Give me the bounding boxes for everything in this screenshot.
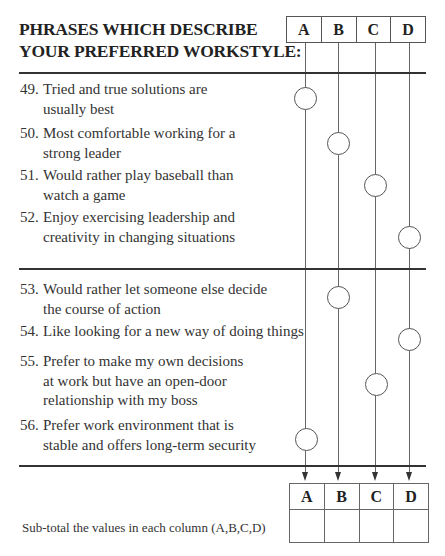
item-text: Like looking for a new way of doing thin…: [43, 322, 300, 342]
subtotal-header-row: A B C D: [290, 484, 428, 510]
subtotal-field-c[interactable]: [360, 510, 395, 543]
item-number: 54.: [20, 322, 39, 342]
subtotal-field-b[interactable]: [325, 510, 360, 543]
item-text: Most comfortable working for a strong le…: [43, 124, 243, 163]
title-line-1: PHRASES WHICH DESCRIBE: [19, 18, 302, 40]
subtotal-field-a[interactable]: [290, 510, 325, 543]
item-54: 54. Like looking for a new way of doing …: [20, 322, 300, 342]
divider-bottom: [19, 465, 426, 467]
answer-circle-54-d[interactable]: [398, 328, 421, 351]
item-49: 49. Tried and true solutions are usually…: [20, 80, 282, 119]
column-header-d: D: [391, 17, 425, 42]
item-number: 55.: [20, 352, 39, 372]
answer-circle-55-c[interactable]: [365, 373, 388, 396]
item-number: 52.: [20, 208, 39, 228]
item-text: Would rather play baseball than watch a …: [43, 166, 243, 205]
item-56: 56. Prefer work environment that is stab…: [20, 416, 282, 455]
item-55: 55. Prefer to make my own decisions at w…: [20, 352, 282, 411]
arrow-down-icon: [372, 472, 378, 481]
answer-circle-50-b[interactable]: [327, 132, 350, 155]
item-text: Tried and true solutions are usually bes…: [43, 80, 243, 119]
divider-middle: [19, 268, 426, 270]
column-header-box: A B C D: [286, 16, 426, 43]
answer-circle-56-a[interactable]: [295, 428, 318, 451]
column-line-d: [409, 43, 410, 473]
item-52: 52. Enjoy exercising leadership and crea…: [20, 208, 282, 247]
item-number: 56.: [20, 416, 39, 436]
subtotal-header-a: A: [290, 484, 325, 509]
divider-top: [19, 72, 426, 74]
answer-circle-51-c[interactable]: [364, 174, 387, 197]
column-line-b: [338, 43, 339, 473]
item-text: Prefer work environment that is stable a…: [43, 416, 268, 455]
item-51: 51. Would rather play baseball than watc…: [20, 166, 282, 205]
column-header-a: A: [287, 17, 322, 42]
answer-circle-53-b[interactable]: [327, 286, 350, 309]
item-number: 51.: [20, 166, 39, 186]
item-number: 49.: [20, 80, 39, 100]
item-text: Would rather let someone else decide the…: [43, 280, 273, 319]
arrow-down-icon: [406, 472, 412, 481]
column-header-b: B: [322, 17, 357, 42]
subtotal-header-d: D: [394, 484, 428, 509]
item-53: 53. Would rather let someone else decide…: [20, 280, 282, 319]
answer-circle-52-d[interactable]: [398, 226, 421, 249]
item-text: Enjoy exercising leadership and creativi…: [43, 208, 258, 247]
item-number: 53.: [20, 280, 39, 300]
item-number: 50.: [20, 124, 39, 144]
answer-circle-49-a[interactable]: [294, 87, 317, 110]
column-header-c: C: [357, 17, 392, 42]
subtotal-header-b: B: [325, 484, 360, 509]
arrow-down-icon: [302, 472, 308, 481]
title-line-2: YOUR PREFERRED WORKSTYLE:: [19, 40, 302, 62]
subtotal-table: A B C D: [289, 483, 429, 543]
item-text: Prefer to make my own decisions at work …: [43, 352, 253, 411]
subtotal-values-row: [290, 510, 428, 543]
subtotal-label: Sub-total the values in each column (A,B…: [22, 520, 266, 536]
arrow-down-icon: [335, 472, 341, 481]
page-title: PHRASES WHICH DESCRIBE YOUR PREFERRED WO…: [19, 18, 302, 62]
subtotal-field-d[interactable]: [394, 510, 428, 543]
item-50: 50. Most comfortable working for a stron…: [20, 124, 282, 163]
subtotal-header-c: C: [360, 484, 395, 509]
column-line-c: [375, 43, 376, 473]
